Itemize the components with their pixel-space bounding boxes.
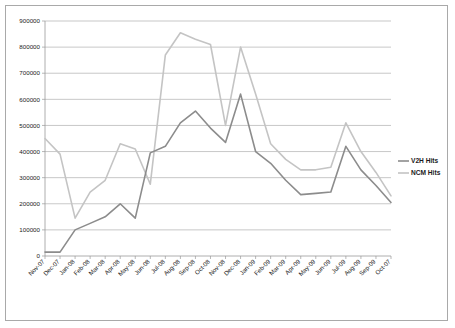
x-axis-tick-label: Sep-08 [177, 257, 196, 276]
series-line-v2h-hits [45, 94, 391, 252]
x-axis-tick-label: Jun-09 [313, 257, 332, 276]
legend-label-v2h-hits: V2H Hits [411, 157, 438, 164]
y-axis-tick-label: 500000 [19, 122, 40, 129]
x-axis-tick-label: Mar-09 [268, 257, 287, 276]
series-lines-group [45, 33, 391, 252]
y-axis-tick-label: 300000 [19, 174, 40, 181]
y-axis-tick-label: 900000 [19, 17, 40, 24]
x-axis-tick-label: Oct-07 [374, 257, 392, 275]
line-chart: 0100000200000300000400000500000600000700… [6, 6, 449, 322]
x-axis-tick-label: May-08 [116, 257, 136, 277]
plot-area: 0100000200000300000400000500000600000700… [6, 6, 449, 322]
y-axis-tick-label: 700000 [19, 69, 40, 76]
x-axis-tick-label: Dec-07 [42, 257, 61, 276]
x-axis-tick-label: May-09 [297, 257, 317, 277]
y-axis-tick-label: 600000 [19, 96, 40, 103]
x-axis-ticks-group [45, 256, 391, 259]
x-axis-tick-label: Sep-09 [358, 257, 377, 276]
chart-legend: V2H HitsNCM Hits [398, 157, 441, 176]
y-axis-labels-group: 0100000200000300000400000500000600000700… [19, 17, 40, 259]
x-axis-tick-label: Mar-08 [87, 257, 106, 276]
chart-container: 0100000200000300000400000500000600000700… [5, 5, 448, 321]
x-axis-labels-group: Nov-07Dec-07Jan-08Feb-08Mar-08Apr-08May-… [27, 257, 392, 277]
legend-label-ncm-hits: NCM Hits [411, 169, 441, 176]
y-axis-tick-label: 400000 [19, 148, 40, 155]
y-axis-tick-label: 100000 [19, 226, 40, 233]
x-axis-tick-label: Dec-08 [222, 257, 241, 276]
y-axis-tick-label: 800000 [19, 43, 40, 50]
x-axis-tick-label: Jun-08 [133, 257, 152, 276]
y-axis-tick-label: 200000 [19, 200, 40, 207]
